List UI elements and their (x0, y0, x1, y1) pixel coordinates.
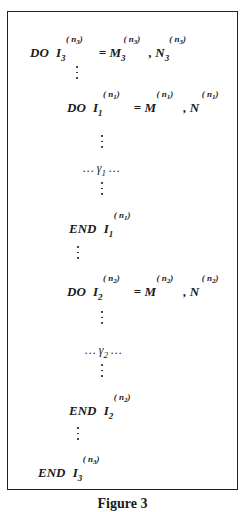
vertical-ellipsis (101, 182, 103, 199)
loop-var-i1: I1 ( n1) (104, 221, 114, 237)
loop-var-i1: I1 ( n1) (93, 100, 103, 116)
end-statement-i2: END I2 ( n2) (69, 403, 113, 419)
comma: , (183, 284, 186, 299)
comma: , (183, 100, 186, 115)
equals-sign: = (134, 284, 141, 299)
loop-var-i2: I2 ( n2) (104, 403, 114, 419)
vertical-ellipsis (77, 427, 79, 444)
upper-bound-n3: N3 ( n3) (155, 45, 169, 61)
outer-do-statement: DO I3 ( n3) = M3 ( n3) , N3 ( n3) (30, 45, 169, 61)
vertical-ellipsis (101, 135, 103, 152)
keyword-do: DO (67, 100, 86, 115)
vertical-ellipsis (77, 246, 79, 263)
figure-frame (7, 11, 238, 490)
vertical-ellipsis (101, 364, 103, 381)
equals-sign: = (134, 100, 141, 115)
loop-var-i2: I2 ( n2) (93, 284, 103, 300)
vertical-ellipsis (101, 311, 103, 328)
figure-caption: Figure 3 (0, 496, 245, 512)
upper-bound-n: N ( n1) (190, 100, 199, 116)
vertical-ellipsis (76, 66, 78, 83)
end-statement-i3: END I3 ( n3) (38, 465, 82, 481)
keyword-end: END (38, 465, 65, 480)
inner-do-statement-2: DO I2 ( n2) = M ( n2) , N ( n2) (67, 284, 199, 300)
loop-var-i3: I3 ( n3) (73, 465, 83, 481)
end-statement-i1: END I1 ( n1) (69, 221, 113, 237)
lower-bound-m3: M3 ( n3) (110, 45, 126, 61)
keyword-do: DO (67, 284, 86, 299)
keyword-end: END (69, 403, 96, 418)
keyword-end: END (69, 221, 96, 236)
equals-sign: = (99, 45, 106, 60)
loop-body-gamma-2: … γ2 … (85, 343, 122, 358)
loop-body-gamma-1: … γ1 … (83, 161, 120, 176)
lower-bound-m: M ( n2) (145, 284, 157, 300)
comma: , (149, 45, 152, 60)
keyword-do: DO (30, 45, 49, 60)
inner-do-statement-1: DO I1 ( n1) = M ( n1) , N ( n1) (67, 100, 199, 116)
upper-bound-n: N ( n2) (190, 284, 199, 300)
lower-bound-m: M ( n1) (145, 100, 157, 116)
loop-var-i3: I3 ( n3) (56, 45, 66, 61)
